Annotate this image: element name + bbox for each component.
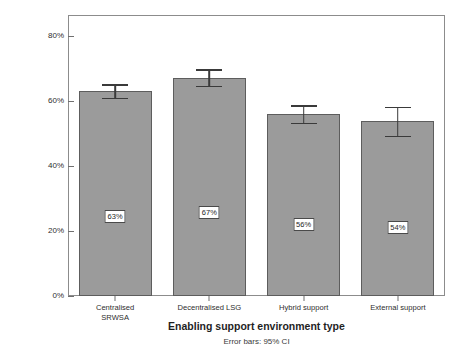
error-bar-cap-upper [102,84,128,86]
x-axis-title: Enabling support environment type [68,320,445,332]
error-bar-line [397,108,399,137]
bars-layer: 63%67%56%54% [68,15,445,296]
error-bar-cap-upper [385,107,411,109]
chart-footnote: Error bars: 95% CI [68,337,445,346]
x-axis-tick-label: Decentralised LSG [163,303,255,313]
error-bar-cap-upper [291,105,317,107]
bar-value-label: 56% [293,218,314,231]
bar-group: 54% [361,15,434,296]
error-bar-cap-lower [102,98,128,100]
bar-group: 67% [173,15,246,296]
bar[interactable] [267,114,340,296]
y-axis-tick-label: 40% [48,160,64,172]
y-axis-tick-label: 0% [52,290,64,302]
bar-group: 56% [267,15,340,296]
y-axis-tick-label: 80% [48,30,64,42]
y-axis-tick-label: 60% [48,95,64,107]
x-axis-tick-mark [397,296,398,301]
bar[interactable] [173,78,246,296]
y-axis-title: Percentage of households meeting basic o… [0,0,42,300]
bar-group: 63% [79,15,152,296]
x-axis-tick-label: External support [352,303,444,313]
x-axis-tick-label: Hybrid support [258,303,350,313]
y-axis-tick-label: 20% [48,225,64,237]
error-bar-cap-upper [196,69,222,71]
error-bar-cap-lower [291,123,317,125]
x-axis-tick-mark [303,296,304,301]
x-axis-tick-mark [115,296,116,301]
error-bar-line [303,107,305,125]
bar[interactable] [361,121,434,296]
bar-value-label: 67% [199,206,220,219]
bar[interactable] [79,91,152,296]
bar-chart-figure: Percentage of households meeting basic o… [0,0,453,352]
error-bar-cap-lower [196,86,222,88]
bar-value-label: 63% [105,210,126,223]
x-axis-tick-mark [209,296,210,301]
bar-value-label: 54% [387,221,408,234]
error-bar-cap-lower [385,136,411,138]
